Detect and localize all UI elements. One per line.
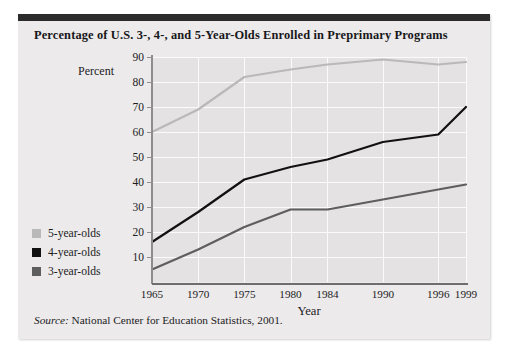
legend-swatch-icon <box>32 229 41 238</box>
x-axis-tick-label: 1980 <box>279 288 301 300</box>
chart-plot-wrapper: Percent 908070605040302010 1965197019751… <box>18 14 490 339</box>
y-axis-line <box>151 55 153 284</box>
x-axis-tick-label: 1999 <box>455 288 477 300</box>
y-axis-tick-label: 80 <box>118 76 144 88</box>
y-axis-tick <box>147 157 152 158</box>
x-axis-tick-label: 1970 <box>187 288 209 300</box>
x-axis-tick-label: 1975 <box>233 288 255 300</box>
series-line-4-year-olds <box>152 107 466 242</box>
y-axis-tick-label: 40 <box>118 176 144 188</box>
x-axis-line <box>152 283 468 285</box>
legend-swatch-icon <box>32 267 41 276</box>
series-line-3-year-olds <box>152 185 466 270</box>
y-axis-tick-label: 50 <box>118 151 144 163</box>
y-axis-tick <box>147 82 152 83</box>
y-axis-tick <box>147 207 152 208</box>
y-axis-title: Percent <box>78 64 114 79</box>
chart-legend: 5-year-olds4-year-olds3-year-olds <box>32 224 144 281</box>
legend-item: 3-year-olds <box>32 262 144 281</box>
y-axis-tick-label: 30 <box>118 201 144 213</box>
y-axis-tick <box>147 107 152 108</box>
figure-card: Percentage of U.S. 3-, 4-, and 5-Year-Ol… <box>18 14 490 339</box>
legend-item: 4-year-olds <box>32 243 144 262</box>
source-label: Source: <box>34 314 69 326</box>
source-note: Source: National Center for Education St… <box>34 314 283 326</box>
y-axis-tick <box>147 57 152 58</box>
x-axis-tick-label: 1996 <box>427 288 449 300</box>
y-axis-tick-label: 60 <box>118 126 144 138</box>
y-axis-tick-label: 70 <box>118 101 144 113</box>
vertical-gridline <box>466 57 467 282</box>
series-line-5-year-olds <box>152 60 466 133</box>
legend-item-label: 4-year-olds <box>48 246 101 259</box>
x-axis-tick-label: 1984 <box>316 288 338 300</box>
source-text: National Center for Education Statistics… <box>72 314 283 326</box>
y-axis-tick <box>147 132 152 133</box>
y-axis-tick <box>147 182 152 183</box>
y-axis-tick-label: 90 <box>118 51 144 63</box>
y-axis-tick <box>147 232 152 233</box>
y-axis-tick <box>147 257 152 258</box>
legend-item-label: 3-year-olds <box>48 265 101 278</box>
x-axis-tick-label: 1965 <box>141 288 163 300</box>
series-lines <box>152 57 466 282</box>
legend-item: 5-year-olds <box>32 224 144 243</box>
x-axis-tick-label: 1990 <box>372 288 394 300</box>
legend-swatch-icon <box>32 248 41 257</box>
plot-area <box>152 57 466 282</box>
legend-item-label: 5-year-olds <box>48 227 101 240</box>
